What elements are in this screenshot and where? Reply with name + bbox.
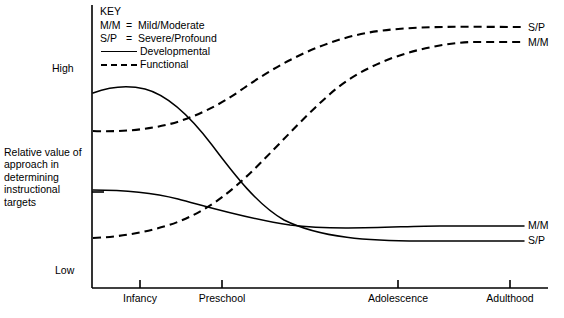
legend-abbr-row-mm: M/M = Mild/Moderate [100, 19, 300, 32]
x-tick-label-adolescence: Adolescence [368, 292, 428, 304]
y-axis-label-low: Low [55, 264, 74, 277]
legend-label-functional: Functional [140, 58, 300, 71]
legend-eq-mm: = [126, 19, 138, 32]
x-tick-label-preschool: Preschool [199, 292, 246, 304]
legend-solid-line-swatch [100, 45, 140, 58]
y-axis-title: Relative value of approach in determinin… [4, 146, 90, 208]
curve-end-label-functional-mm: M/M [528, 36, 548, 48]
legend-abbr-mm: M/M [100, 19, 126, 32]
curve-end-label-functional-sp: S/P [528, 21, 545, 33]
legend-line-row-developmental: Developmental [100, 45, 300, 58]
legend-abbr-sp: S/P [100, 32, 126, 45]
curve-functional-mm [93, 42, 524, 238]
legend-def-mm: Mild/Moderate [138, 19, 300, 32]
legend-def-sp: Severe/Profound [138, 32, 300, 45]
legend-label-developmental: Developmental [140, 45, 300, 58]
legend-title: KEY [100, 5, 300, 18]
curve-end-label-developmental-mm: M/M [528, 219, 548, 231]
x-tick-label-infancy: Infancy [123, 292, 157, 304]
legend-abbr-row-sp: S/P = Severe/Profound [100, 32, 300, 45]
legend-eq-sp: = [126, 32, 138, 45]
chart-figure: Relative value of approach in determinin… [0, 0, 564, 318]
curve-developmental-sp [93, 87, 524, 241]
chart-legend: KEY M/M = Mild/Moderate S/P = Severe/Pro… [100, 5, 300, 71]
curve-developmental-mm [93, 190, 524, 228]
curve-end-label-developmental-sp: S/P [528, 234, 545, 246]
x-tick-label-adulthood: Adulthood [486, 292, 533, 304]
legend-dashed-line-swatch [100, 58, 140, 71]
legend-line-row-functional: Functional [100, 58, 300, 71]
y-axis-label-high: High [52, 62, 74, 75]
